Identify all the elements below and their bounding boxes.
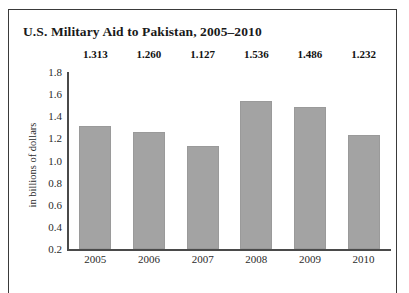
bar[interactable]: 1.536 [240,101,272,249]
x-axis-ticks: 200520062007200820092010 [69,253,391,265]
y-axis-tick-label: 0.6 [48,199,62,210]
bar[interactable]: 1.127 [187,146,219,249]
y-axis-label: in billions of dollars [25,72,41,258]
y-axis-tick-label: 1.0 [48,155,62,166]
bar-slot: 1.260 [126,63,172,249]
bar-value-label: 1.260 [137,48,162,60]
bar-value-label: 1.127 [190,48,215,60]
bar[interactable]: 1.486 [294,107,326,249]
y-axis-tick-label: 0.2 [48,244,62,255]
bar-series: 1.3131.2601.1271.5361.4861.232 [69,63,391,249]
x-axis-tick-label: 2007 [180,253,226,265]
bar-slot: 1.486 [287,63,333,249]
bar-slot: 1.313 [72,63,118,249]
chart-title: U.S. Military Aid to Pakistan, 2005–2010 [23,24,262,40]
x-axis-tick-label: 2005 [72,253,118,265]
x-axis-tick-label: 2008 [233,253,279,265]
plot-area: 1.81.61.41.21.00.80.60.40.2 1.3131.2601.… [67,63,391,258]
bar-value-label: 1.232 [351,48,376,60]
bar[interactable]: 1.260 [133,132,165,249]
y-axis-tick-label: 1.2 [48,133,62,144]
bar-slot: 1.232 [341,63,387,249]
bar-value-label: 1.486 [298,48,323,60]
x-axis-tick-label: 2010 [341,253,387,265]
x-axis-tick-label: 2009 [287,253,333,265]
bar[interactable]: 1.313 [79,126,111,249]
y-axis-tick-label: 1.6 [48,89,62,100]
chart-figure: U.S. Military Aid to Pakistan, 2005–2010… [8,9,397,293]
y-axis-tick-label: 1.4 [48,111,62,122]
y-axis-tick-label: 0.4 [48,221,62,232]
bar-slot: 1.536 [233,63,279,249]
bar-slot: 1.127 [180,63,226,249]
x-axis-tick-label: 2006 [126,253,172,265]
bar[interactable]: 1.232 [348,135,380,249]
y-axis-tick-label: 1.8 [48,67,62,78]
bar-value-label: 1.313 [83,48,108,60]
x-axis-line [67,249,391,251]
y-axis-tick-label: 0.8 [48,177,62,188]
bar-value-label: 1.536 [244,48,269,60]
